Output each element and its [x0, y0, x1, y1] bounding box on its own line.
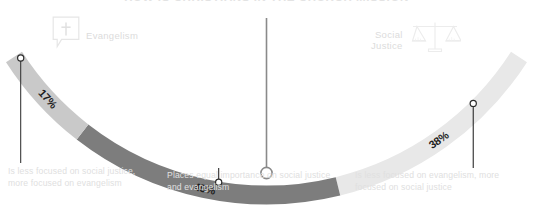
caption-less-evangelism: Is less focused on evangelism, more focu… — [355, 170, 531, 193]
arc-chart: HOW IS CHRISTIANS IN THE CHURCH MISSION … — [0, 0, 533, 215]
scales-of-justice-icon — [409, 18, 461, 62]
pole-social-justice-label: Social Justice — [371, 29, 403, 51]
center-pointer — [261, 18, 272, 179]
marker-dot-left[interactable] — [18, 55, 24, 61]
marker-dot-right[interactable] — [470, 100, 476, 106]
pole-evangelism: Evangelism — [52, 16, 138, 54]
speech-bubble-cross-icon — [52, 16, 80, 54]
pole-social-justice: Social Justice — [371, 18, 461, 62]
caption-less-social-justice: Is less focused on social justice, more … — [8, 166, 136, 189]
pole-evangelism-label: Evangelism — [86, 30, 138, 41]
caption-equal-importance: Places equal importance on social justic… — [167, 170, 337, 193]
